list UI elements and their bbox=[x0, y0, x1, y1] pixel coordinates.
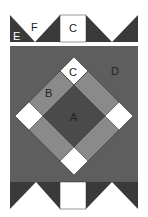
label-e: E bbox=[13, 30, 20, 42]
label-a: A bbox=[70, 111, 78, 123]
label-c-top: C bbox=[69, 22, 77, 34]
label-d: D bbox=[111, 65, 119, 77]
label-f: F bbox=[31, 21, 38, 33]
quilt-diagram: E F C C D B A bbox=[0, 0, 148, 217]
label-b: B bbox=[45, 87, 52, 99]
label-c-middle: C bbox=[69, 66, 77, 78]
bottom-strip bbox=[10, 182, 138, 209]
